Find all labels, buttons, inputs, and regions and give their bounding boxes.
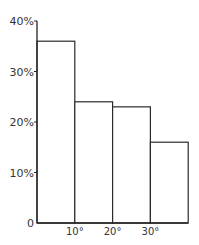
y-tick-label: 0 [27, 217, 34, 230]
histogram-chart: 010%20%30%40% 10°20°30° [0, 0, 199, 245]
bar-30-40 [150, 142, 188, 223]
bar-20-30 [113, 107, 151, 223]
x-tick-label: 10° [66, 226, 84, 237]
x-tick-label: 30° [142, 226, 160, 237]
y-tick-label: 30% [10, 66, 34, 79]
x-tick-label: 20° [104, 226, 122, 237]
bar-10-20 [75, 102, 113, 223]
y-tick-label: 10% [10, 167, 34, 180]
y-tick-label: 20% [10, 116, 34, 129]
bar-0-10 [37, 41, 75, 223]
y-tick-label: 40% [10, 15, 34, 28]
